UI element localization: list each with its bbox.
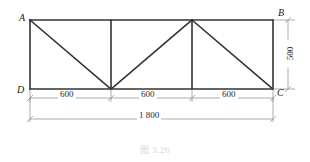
truss-figure: A B C D 600 600 600 1 800 500 图 3.26: [0, 0, 310, 162]
member-diagonal-3: [192, 20, 273, 89]
dimension-total-span: 1 800: [137, 111, 161, 120]
truss-drawing: [0, 0, 310, 162]
truss-members: [30, 20, 273, 89]
node-label-a: A: [19, 13, 25, 23]
dimension-bay-3: 600: [220, 90, 238, 99]
node-label-b: B: [278, 8, 284, 18]
dimension-height: 500: [286, 40, 295, 68]
node-label-d: D: [17, 85, 24, 95]
figure-caption: 图 3.26: [0, 143, 310, 156]
dimension-bay-2: 600: [139, 90, 157, 99]
member-diagonal-1: [30, 20, 111, 89]
node-label-c: C: [277, 88, 284, 98]
dimension-bay-1: 600: [58, 90, 76, 99]
member-diagonal-2: [111, 20, 192, 89]
